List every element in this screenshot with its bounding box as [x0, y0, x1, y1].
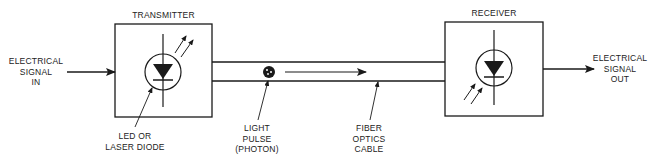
pulse-label-line: (PHOTON)	[227, 144, 287, 155]
diagram-canvas	[0, 0, 658, 163]
transmitter-title: TRANSMITTER	[115, 10, 212, 21]
output-label-line: SIGNAL	[585, 64, 655, 75]
photodiode-icon	[464, 30, 512, 105]
input-label-line: IN	[6, 77, 66, 88]
input-label-line: ELECTRICAL	[6, 56, 66, 67]
diode-leader	[135, 88, 152, 127]
input-label: ELECTRICAL SIGNAL IN	[6, 56, 66, 88]
diode-label-line: LED OR	[100, 131, 170, 142]
pulse-label-line: PULSE	[227, 134, 287, 145]
output-label-line: OUT	[585, 74, 655, 85]
diode-label-line: LASER DIODE	[100, 142, 170, 153]
diode-label: LED OR LASER DIODE	[100, 131, 170, 152]
pulse-label: LIGHT PULSE (PHOTON)	[227, 123, 287, 155]
cable-leader	[370, 82, 378, 120]
cable-label: FIBER OPTICS CABLE	[344, 123, 394, 155]
cable-label-line: CABLE	[344, 144, 394, 155]
pulse-label-line: LIGHT	[227, 123, 287, 134]
photon-icon	[263, 66, 275, 78]
output-label-line: ELECTRICAL	[585, 53, 655, 64]
pulse-leader	[258, 81, 268, 120]
input-label-line: SIGNAL	[6, 67, 66, 78]
receiver-title: RECEIVER	[445, 8, 543, 19]
led-diode-icon	[145, 34, 193, 107]
output-label: ELECTRICAL SIGNAL OUT	[585, 53, 655, 85]
cable-label-line: OPTICS	[344, 134, 394, 145]
cable-label-line: FIBER	[344, 123, 394, 134]
